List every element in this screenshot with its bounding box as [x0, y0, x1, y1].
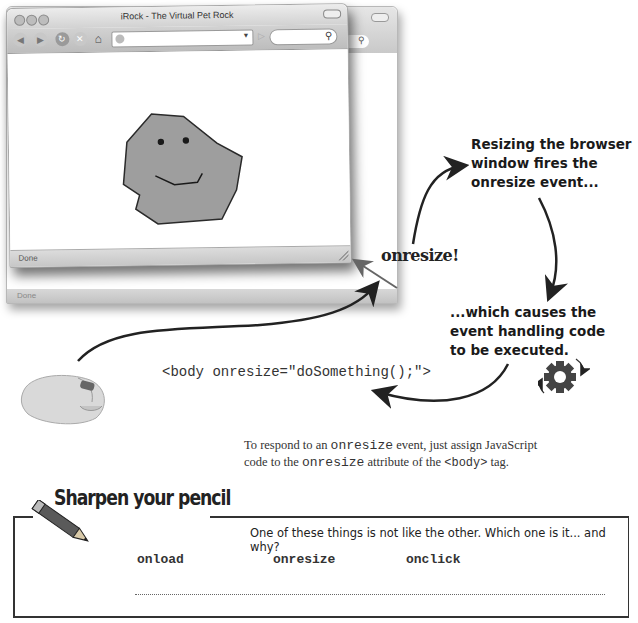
- caption: To respond to an onresize event, just as…: [244, 437, 537, 472]
- exercise-question: One of these things is not like the othe…: [250, 526, 638, 554]
- term-onload: onload: [137, 552, 184, 567]
- mouse-icon: [18, 368, 110, 428]
- onresize-event-label: onresize!: [381, 246, 459, 265]
- resize-note: Resizing the browser window fires the on…: [471, 135, 632, 192]
- gear-icon: [538, 355, 590, 400]
- handler-note: ...which causes the event handling code …: [450, 303, 605, 360]
- code-snippet: <body onresize="doSomething();">: [162, 364, 431, 380]
- term-onresize: onresize: [273, 552, 335, 567]
- divider: [210, 516, 628, 518]
- sharpen-title: Sharpen your pencil: [54, 486, 230, 510]
- term-onclick: onclick: [406, 552, 461, 567]
- answer-line[interactable]: [135, 594, 605, 595]
